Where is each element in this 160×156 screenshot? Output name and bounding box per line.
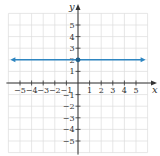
coordinate-plane: −5−4−3−2−112345−5−4−3−2−112345 x y [0,0,160,156]
y-tick-label: 3 [69,44,74,53]
y-tick-label: 4 [69,33,74,42]
axes [6,4,157,155]
x-tick-label: 3 [110,86,115,95]
y-tick-label: 1 [69,67,74,76]
x-tick-label: −4 [26,86,38,95]
y-tick-label: −5 [63,137,75,146]
y-intercept-point [76,57,81,62]
right-arrow-icon [141,57,146,62]
y-axis-arrow-icon [76,4,81,10]
y-tick-label: −1 [63,91,75,100]
x-tick-label: −3 [37,86,49,95]
x-tick-label: −2 [49,86,61,95]
y-tick-label: −3 [63,114,75,123]
y-tick-label: 5 [69,21,74,30]
plot-series [10,57,145,62]
x-axis-label: x [152,84,158,95]
x-tick-label: −5 [14,86,26,95]
left-arrow-icon [10,57,15,62]
x-tick-label: 1 [87,86,92,95]
y-axis-label: y [68,1,75,12]
x-tick-label: 5 [133,86,138,95]
y-tick-label: −4 [63,125,75,134]
y-tick-label: −2 [63,102,75,111]
x-tick-label: 4 [122,86,127,95]
x-tick-label: 2 [99,86,104,95]
